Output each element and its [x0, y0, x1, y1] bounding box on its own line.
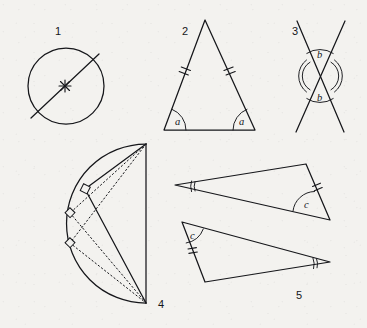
dashed-chord-bottom-2 — [70, 213, 146, 303]
angle-label-b-top: b — [317, 49, 322, 60]
solid-chord-bottom — [85, 189, 146, 303]
upper-triangle-outline — [175, 164, 330, 220]
figure-1-number: 1 — [55, 25, 61, 37]
figure-2-isosceles-triangle: 2 a a — [164, 20, 255, 130]
figure-3-vertical-angles: 3 b b — [292, 21, 345, 132]
upper-left-angle-arc-outer — [191, 181, 192, 192]
lower-right-angle-arc-outer — [313, 258, 314, 269]
figure-1-circle-with-diameter: 1 — [28, 25, 104, 124]
dashed-chord-top-3 — [70, 144, 146, 243]
figures-canvas: 1 2 — [0, 0, 367, 328]
right-angle-marker-1 — [80, 184, 90, 194]
geometry-figure-sheet: 1 2 — [0, 0, 367, 328]
angle-label-b-bottom: b — [317, 92, 322, 103]
figure-5-number: 5 — [296, 289, 302, 301]
lower-triangle-outline — [182, 222, 330, 282]
upper-triangle: c — [175, 164, 330, 220]
angle-label-c-lower: c — [190, 230, 195, 241]
angle-label-a-right: a — [239, 116, 244, 127]
right-leg-equal-ticks — [224, 67, 235, 75]
left-angle-arc-inner — [302, 62, 310, 90]
crossing-line-2 — [296, 21, 345, 132]
upper-left-angle-arc-inner — [194, 182, 195, 191]
lower-right-angle-arc-inner — [317, 259, 318, 268]
figure-5-congruent-triangles: 5 c c — [175, 164, 330, 301]
left-leg-equal-ticks — [179, 67, 190, 75]
figure-3-number: 3 — [292, 25, 298, 37]
figure-2-number: 2 — [182, 25, 188, 37]
centre-point-icon — [59, 80, 71, 92]
angle-label-a-left: a — [175, 116, 180, 127]
figure-4-thales-semicircle: 4 — [65, 144, 164, 310]
right-angle-arc-inner — [331, 62, 339, 90]
triangle-outline — [164, 20, 255, 130]
lower-triangle: c — [182, 222, 330, 282]
angle-label-c-upper: c — [304, 199, 309, 210]
figure-4-number: 4 — [158, 298, 164, 310]
